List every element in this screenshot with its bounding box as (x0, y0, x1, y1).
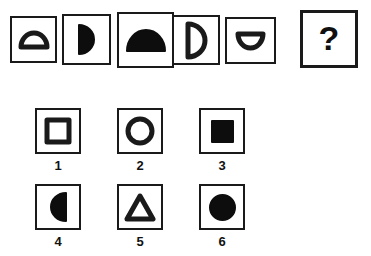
circle-solid-icon (208, 193, 237, 222)
answer-option-5[interactable]: 5 (117, 184, 163, 230)
answer-placeholder-cell: ? (300, 10, 358, 68)
option-box-4[interactable] (35, 184, 81, 230)
answer-option-1[interactable]: 1 (35, 108, 81, 154)
figure-series-puzzle: ?123456 (0, 0, 371, 256)
option-label-3: 3 (199, 158, 245, 173)
option-label-6: 6 (199, 234, 245, 249)
half-circle-solid-flat-bottom-icon (125, 28, 167, 53)
triangle-outline-icon (122, 191, 158, 224)
option-label-5: 5 (117, 234, 163, 249)
sequence-cell-2 (62, 14, 111, 65)
half-circle-outline-flat-top-icon (233, 29, 268, 53)
option-box-1[interactable] (35, 108, 81, 154)
square-solid-icon (210, 119, 235, 144)
answer-option-6[interactable]: 6 (199, 184, 245, 230)
half-circle-solid-flat-right-icon (49, 191, 68, 223)
option-label-1: 1 (35, 158, 81, 173)
question-mark: ? (319, 21, 340, 55)
half-circle-outline-flat-left-icon (183, 19, 210, 62)
sequence-cell-3 (117, 12, 174, 68)
half-circle-solid-flat-left-icon (77, 23, 96, 56)
sequence-cell-5 (225, 17, 276, 64)
sequence-cell-1 (10, 16, 57, 63)
sequence-cell-4 (172, 15, 220, 65)
circle-outline-icon (123, 114, 157, 148)
square-outline-icon (42, 115, 74, 147)
option-box-5[interactable] (117, 184, 163, 230)
answer-option-3[interactable]: 3 (199, 108, 245, 154)
option-box-6[interactable] (199, 184, 245, 230)
option-box-2[interactable] (117, 108, 163, 154)
option-label-2: 2 (117, 158, 163, 173)
answer-option-2[interactable]: 2 (117, 108, 163, 154)
option-label-4: 4 (35, 234, 81, 249)
answer-option-4[interactable]: 4 (35, 184, 81, 230)
option-box-3[interactable] (199, 108, 245, 154)
half-circle-outline-flat-bottom-icon (16, 28, 52, 52)
